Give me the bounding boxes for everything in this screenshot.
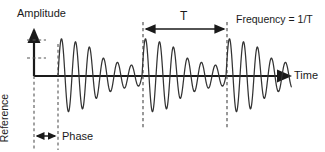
y-axis-label: Amplitude: [17, 8, 66, 19]
reference-label: Reference: [0, 88, 10, 148]
phase-label: Phase: [62, 131, 93, 142]
x-axis-label: Time: [294, 70, 318, 81]
waveform-diagram-figure: Amplitude Time T Frequency = 1/T Phase R…: [0, 0, 325, 152]
frequency-note-label: Frequency = 1/T: [236, 14, 313, 25]
period-label: T: [180, 10, 187, 22]
